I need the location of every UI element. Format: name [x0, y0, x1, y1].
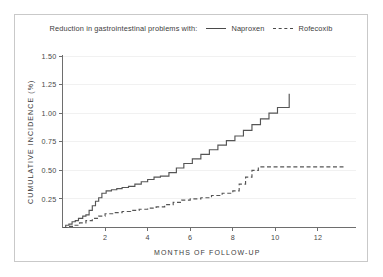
- x-tick-label: 4: [146, 233, 150, 242]
- chart-plot-area: 0.250.500.751.001.251.50 24681012 MONTHS…: [0, 0, 383, 277]
- y-tick-label: 1.25: [42, 80, 57, 89]
- y-tick-label: 1.50: [42, 52, 57, 61]
- y-axis-title: CUMULATIVE INCIDENCE (%): [27, 80, 35, 204]
- data-series-group: [64, 94, 344, 228]
- y-tick-label: 1.00: [42, 109, 57, 118]
- x-tick-label: 2: [103, 233, 107, 242]
- x-tick-label: 10: [271, 233, 280, 242]
- grid-lines: [63, 56, 357, 199]
- x-axis-ticks: 24681012: [103, 228, 322, 243]
- y-tick-label: 0.50: [42, 166, 57, 175]
- series-path-rofecoxib: [64, 167, 344, 228]
- x-tick-label: 8: [231, 233, 235, 242]
- x-tick-label: 6: [188, 233, 192, 242]
- x-axis-title: MONTHS OF FOLLOW-UP: [154, 249, 260, 256]
- figure-container: Reduction in gastrointestinal problems w…: [0, 0, 383, 277]
- y-tick-label: 0.25: [42, 195, 57, 204]
- y-tick-label: 0.75: [42, 137, 57, 146]
- series-path-naproxen: [64, 94, 290, 228]
- y-axis-ticks: 0.250.500.751.001.251.50: [42, 52, 63, 204]
- x-tick-label: 12: [314, 233, 323, 242]
